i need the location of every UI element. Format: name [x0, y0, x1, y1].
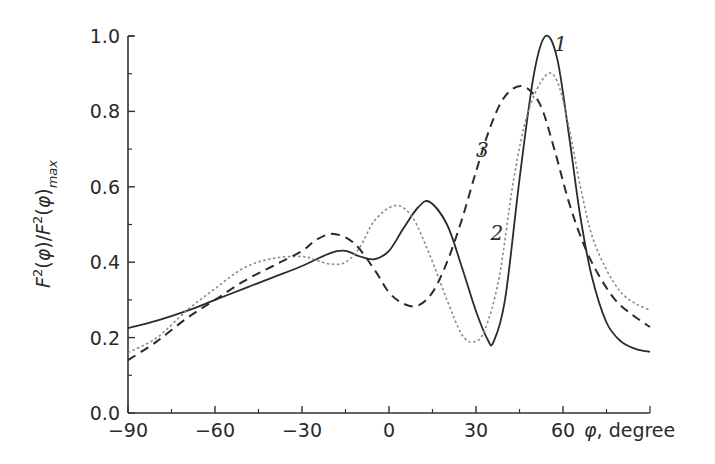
labels: 123: [476, 32, 567, 245]
x-tick-label: 60: [551, 419, 575, 441]
line-chart: −90−60−30030600.00.20.40.60.81.0φ, degre…: [0, 0, 715, 464]
y-tick-label: 0.2: [90, 327, 120, 349]
y-tick-label: 1.0: [90, 25, 120, 47]
curve-label-2: 2: [490, 221, 504, 245]
curve-label-3: 3: [476, 138, 489, 162]
curve-2: [128, 73, 650, 353]
curve-3: [128, 86, 650, 360]
curves: [128, 36, 650, 361]
y-tick-label: 0.8: [90, 100, 120, 122]
x-tick-label: 30: [464, 419, 488, 441]
y-tick-label: 0.0: [90, 402, 120, 424]
x-tick-label: −30: [282, 419, 322, 441]
x-tick-label: 0: [383, 419, 395, 441]
curve-label-1: 1: [554, 32, 567, 56]
y-tick-label: 0.4: [90, 251, 120, 273]
x-axis-label: φ, degree: [584, 419, 675, 441]
x-tick-label: −60: [195, 419, 235, 441]
y-axis-label: F2(φ)/F2(φ)max: [30, 160, 60, 288]
y-tick-label: 0.6: [90, 176, 120, 198]
